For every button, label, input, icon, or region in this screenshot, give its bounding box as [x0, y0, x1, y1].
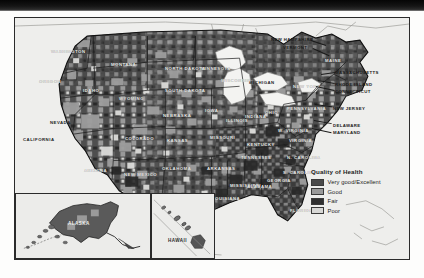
inset-label-alaska: ALASKA: [68, 221, 90, 226]
map-figure: WASHINGTONOREGONIDAHOMONTANAWYOMINGNEVAD…: [14, 17, 410, 260]
legend-entry: Very good/Excellent: [311, 178, 403, 186]
inset-label-hawaii: HAWAII: [168, 238, 187, 243]
callout-label-rhode-island: RHODE ISLAND: [335, 82, 373, 87]
legend-swatch: [311, 207, 324, 214]
hawaii-map-svg: [152, 194, 214, 258]
map-legend: Quality of Health Very good/ExcellentGoo…: [311, 168, 403, 216]
legend-swatch: [311, 188, 324, 195]
legend-entry: Fair: [311, 197, 403, 205]
inset-hawaii: HAWAII: [151, 193, 215, 259]
scan-bar-edge: [0, 10, 424, 11]
legend-swatch: [311, 179, 324, 186]
legend-label: Very good/Excellent: [328, 179, 381, 185]
legend-label: Good: [328, 189, 343, 195]
callout-label-new-hampshire: NEW HAMPSHIRE: [271, 37, 313, 42]
legend-label: Fair: [328, 198, 338, 204]
callout-label-massachusetts: MASSACHUSETTS: [335, 70, 379, 75]
callout-label-vermont: VERMONT: [283, 45, 307, 50]
legend-entry: Good: [311, 188, 403, 196]
legend-entry-list: Very good/ExcellentGoodFairPoor: [311, 178, 403, 215]
legend-entry: Poor: [311, 207, 403, 215]
alaska-map-svg: [16, 194, 150, 258]
callout-label-new-jersey: NEW JERSEY: [333, 106, 365, 111]
legend-label: Poor: [328, 208, 341, 214]
callout-label-delaware: DELAWARE: [333, 123, 361, 128]
callout-label-maryland: MARYLAND: [333, 130, 361, 135]
inset-alaska: ALASKA: [15, 193, 151, 259]
document-page: WASHINGTONOREGONIDAHOMONTANAWYOMINGNEVAD…: [0, 0, 424, 278]
legend-swatch: [311, 198, 324, 205]
scan-top-bar: [0, 0, 424, 11]
legend-title: Quality of Health: [311, 168, 403, 175]
callout-label-connecticut: CONNECTICUT: [335, 89, 371, 94]
